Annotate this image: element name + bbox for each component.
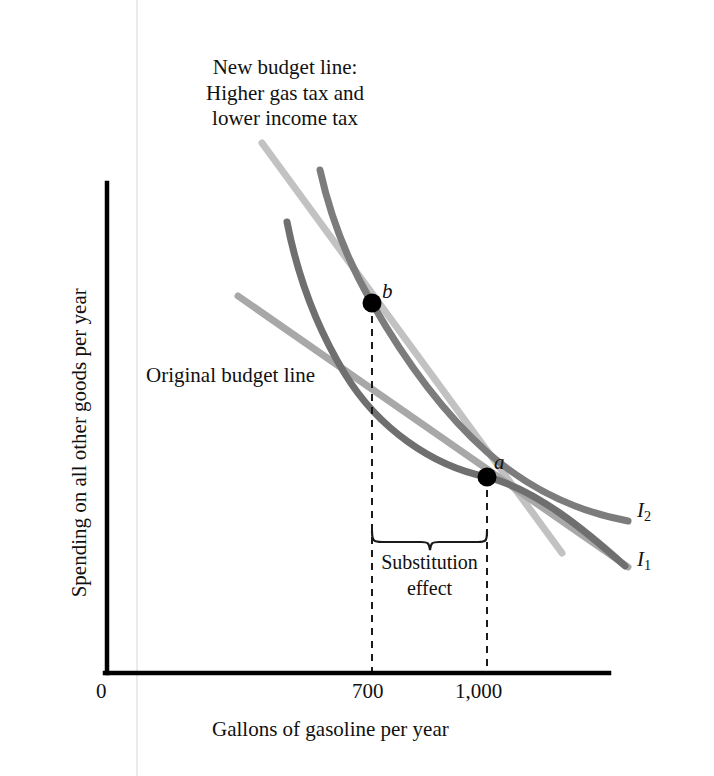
- point-marker-b: [363, 294, 382, 313]
- annotation-original-budget-line: Original budget line: [146, 363, 315, 389]
- substitution-effect-brace: [372, 531, 487, 550]
- curve-label-i1: I1: [637, 547, 651, 574]
- curve-label-i2-subscript: 2: [644, 508, 651, 524]
- curve-label-i2-letter: I: [637, 498, 644, 522]
- axis-tick-1000: 1,000: [455, 679, 502, 705]
- figure-container: New budget line: Higher gas tax and lowe…: [0, 0, 714, 776]
- annotation-new-budget-line: New budget line: Higher gas tax and lowe…: [170, 55, 400, 132]
- y-axis-title: Spending on all other goods per year: [67, 243, 93, 643]
- indifference-curve-i2: [320, 170, 628, 521]
- axis-tick-700: 700: [352, 679, 384, 705]
- curve-label-i1-subscript: 1: [644, 557, 651, 573]
- indifference-curve-i1: [287, 222, 625, 566]
- point-label-a: a: [494, 450, 505, 476]
- x-axis-title: Gallons of gasoline per year: [212, 717, 449, 743]
- original-budget-line: [238, 296, 628, 567]
- point-label-b: b: [382, 279, 393, 305]
- annotation-substitution-effect: Substitution effect: [367, 549, 492, 601]
- curve-label-i2: I2: [637, 498, 651, 525]
- curve-label-i1-letter: I: [637, 547, 644, 571]
- axis-tick-origin: 0: [96, 679, 107, 705]
